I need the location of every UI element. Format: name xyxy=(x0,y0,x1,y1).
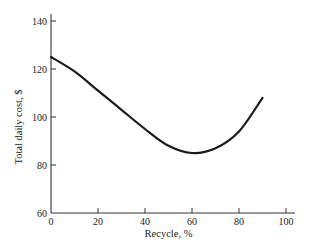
x-axis: 020406080100 Recycle, % xyxy=(49,208,296,239)
total-daily-cost-chart: 6080100120140 Total daily cost, $ 020406… xyxy=(0,0,310,252)
y-tick-label: 80 xyxy=(37,160,47,171)
x-tick-label: 60 xyxy=(187,216,197,227)
x-tick-label: 100 xyxy=(279,216,294,227)
x-tick-label: 0 xyxy=(49,216,54,227)
y-tick-label: 100 xyxy=(32,112,47,123)
y-tick-label: 140 xyxy=(32,16,47,27)
y-tick-label: 60 xyxy=(37,208,47,219)
x-ticks: 020406080100 xyxy=(49,208,294,227)
y-axis: 6080100120140 Total daily cost, $ xyxy=(13,14,56,219)
plot-area xyxy=(51,57,263,153)
x-tick-label: 80 xyxy=(234,216,244,227)
y-ticks: 6080100120140 xyxy=(32,16,56,219)
y-axis-title: Total daily cost, $ xyxy=(13,89,24,164)
series-line-total-daily-cost xyxy=(51,57,263,153)
x-tick-label: 20 xyxy=(93,216,103,227)
x-axis-title: Recycle, % xyxy=(145,228,193,239)
x-tick-label: 40 xyxy=(140,216,150,227)
y-tick-label: 120 xyxy=(32,64,47,75)
